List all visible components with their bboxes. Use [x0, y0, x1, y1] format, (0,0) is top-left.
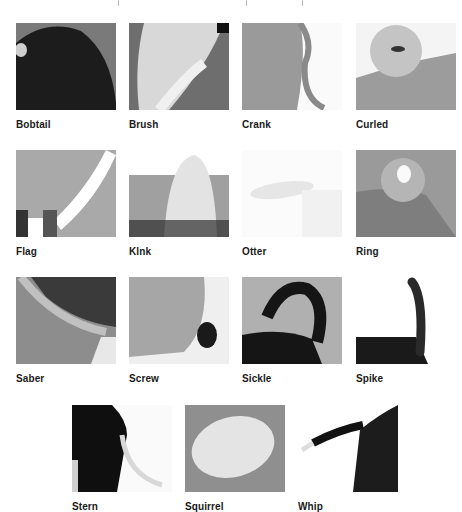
- tile-flag: Flag: [16, 150, 116, 257]
- screw-photo: [129, 277, 229, 364]
- tile-label: Brush: [129, 119, 229, 130]
- tile-label: Stern: [72, 501, 172, 512]
- tile-label: Screw: [129, 373, 229, 384]
- tile-bobtail: Bobtail: [16, 23, 116, 130]
- tick-mark: [118, 0, 119, 6]
- tile-label: Saber: [16, 373, 116, 384]
- whip-photo: [298, 405, 398, 492]
- flag-photo: [16, 150, 116, 237]
- ring-photo: [356, 150, 456, 237]
- tile-curled: Curled: [356, 23, 456, 130]
- tile-screw: Screw: [129, 277, 229, 384]
- tile-label: Bobtail: [16, 119, 116, 130]
- tick-mark: [246, 0, 247, 6]
- tile-label: Otter: [242, 246, 342, 257]
- tile-label: Klnk: [129, 246, 229, 257]
- tile-label: Sickle: [242, 373, 342, 384]
- tile-label: Whip: [298, 501, 398, 512]
- tile-kink: Klnk: [129, 150, 229, 257]
- tile-stern: Stern: [72, 405, 172, 512]
- crank-photo: [242, 23, 342, 110]
- tile-crank: Crank: [242, 23, 342, 130]
- tile-squirrel: Squirrel: [185, 405, 285, 512]
- sickle-photo: [242, 277, 342, 364]
- squirrel-photo: [185, 405, 285, 492]
- tile-label: Flag: [16, 246, 116, 257]
- tile-spike: Spike: [356, 277, 456, 384]
- spike-photo: [356, 277, 456, 364]
- tile-label: Ring: [356, 246, 456, 257]
- tick-mark: [302, 0, 303, 6]
- tile-label: Curled: [356, 119, 456, 130]
- tile-sickle: Sickle: [242, 277, 342, 384]
- stern-photo: [72, 405, 172, 492]
- tile-brush: Brush: [129, 23, 229, 130]
- tile-otter: Otter: [242, 150, 342, 257]
- saber-photo: [16, 277, 116, 364]
- tile-label: Spike: [356, 373, 456, 384]
- tile-whip: Whip: [298, 405, 398, 512]
- brush-photo: [129, 23, 229, 110]
- tile-ring: Ring: [356, 150, 456, 257]
- otter-photo: [242, 150, 342, 237]
- bobtail-photo: [16, 23, 116, 110]
- curled-photo: [356, 23, 456, 110]
- tile-label: Crank: [242, 119, 342, 130]
- tile-saber: Saber: [16, 277, 116, 384]
- kink-photo: [129, 150, 229, 237]
- tile-label: Squirrel: [185, 501, 285, 512]
